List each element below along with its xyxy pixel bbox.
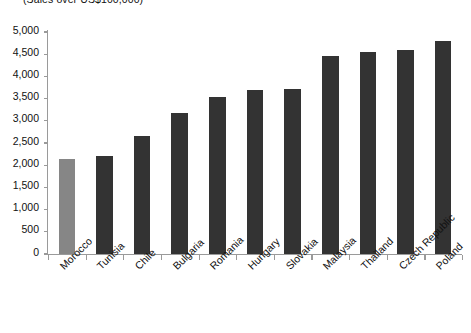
bars-container <box>48 32 462 254</box>
bar-czech-republic[interactable] <box>397 50 414 254</box>
y-tick-label: 4,000 <box>13 69 39 80</box>
bar-romania[interactable] <box>209 97 226 254</box>
bar-chart: (Sales over US$100,000) 05001,0001,5002,… <box>0 0 471 333</box>
bar-chile[interactable] <box>134 136 151 254</box>
x-tick-mark <box>123 255 124 260</box>
x-tick-mark <box>199 255 200 260</box>
y-tick-label: 0 <box>33 247 39 258</box>
x-tick-mark <box>274 255 275 260</box>
x-tick-mark <box>161 255 162 260</box>
bar-tunisia[interactable] <box>96 156 113 254</box>
y-tick-label: 2,500 <box>13 136 39 147</box>
bar-hungary[interactable] <box>247 90 264 254</box>
bar-slovakia[interactable] <box>284 89 301 254</box>
y-tick-label: 1,500 <box>13 180 39 191</box>
x-tick-mark <box>311 255 312 260</box>
x-tick-mark <box>462 255 463 260</box>
bar-morocco[interactable] <box>59 159 76 254</box>
x-tick-mark <box>349 255 350 260</box>
y-tick-label: 1,000 <box>13 202 39 213</box>
y-tick-label: 4,500 <box>13 47 39 58</box>
x-tick-mark <box>48 255 49 260</box>
bar-malaysia[interactable] <box>322 56 339 254</box>
y-tick-label: 3,000 <box>13 113 39 124</box>
x-tick-mark <box>236 255 237 260</box>
chart-title: (Sales over US$100,000) <box>23 0 143 5</box>
y-tick-label: 2,000 <box>13 158 39 169</box>
y-tick-label: 5,000 <box>13 25 39 36</box>
bar-thailand[interactable] <box>360 52 377 254</box>
x-tick-mark <box>424 255 425 260</box>
x-tick-mark <box>86 255 87 260</box>
y-tick-label: 3,500 <box>13 91 39 102</box>
x-tick-mark <box>387 255 388 260</box>
bar-bulgaria[interactable] <box>171 113 188 254</box>
y-tick-label: 500 <box>21 224 39 235</box>
